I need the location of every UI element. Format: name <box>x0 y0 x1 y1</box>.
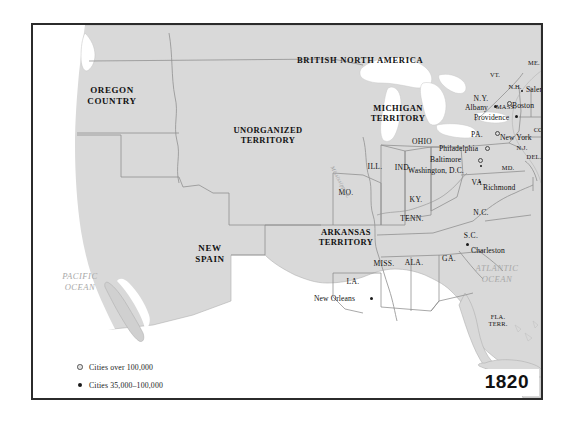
legend-symbol-circle-ring <box>71 364 89 370</box>
city-marker-salem <box>521 90 523 92</box>
map-date-label: 1820 <box>471 369 539 396</box>
legend-label-over-100000: Cities over 100,000 <box>89 363 153 372</box>
map-legend: Cities over 100,000 Cities 35,000–100,00… <box>71 358 163 400</box>
legend-label-10000-35000: Cities 10,000–35,000 <box>89 399 159 401</box>
city-marker-boston <box>507 101 512 106</box>
map-frame: BRITISH NORTH AMERICA OREGON COUNTRY UNO… <box>31 23 543 400</box>
legend-symbol-dot-medium <box>71 383 89 387</box>
legend-item-over-100000: Cities over 100,000 <box>71 358 163 376</box>
city-marker-philadelphia <box>485 146 490 151</box>
legend-label-35000-100000: Cities 35,000–100,000 <box>89 381 163 390</box>
legend-item-35000-100000: Cities 35,000–100,000 <box>71 376 163 394</box>
legend-item-10000-35000: Cities 10,000–35,000 <box>71 394 163 400</box>
city-marker-new-york <box>495 131 500 136</box>
city-marker-richmond <box>479 181 481 183</box>
map-geometry <box>33 25 541 398</box>
city-marker-baltimore <box>478 158 483 163</box>
city-marker-washington-dc <box>480 165 482 167</box>
map-page: BRITISH NORTH AMERICA OREGON COUNTRY UNO… <box>0 0 574 421</box>
